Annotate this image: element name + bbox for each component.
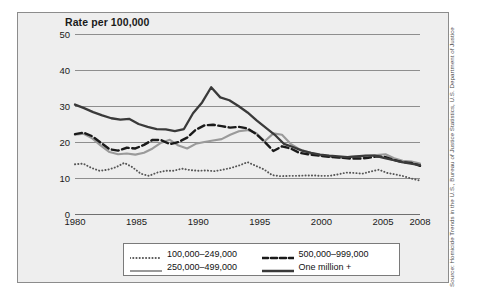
x-tick-label: 2008	[409, 216, 430, 227]
legend-item-one-million-plus: One million +	[262, 262, 394, 272]
plot-area: 01020304050 1980198519901995200020052008	[75, 34, 420, 214]
legend-row: 250,000–499,000 One million +	[130, 260, 393, 273]
legend-label: 250,000–499,000	[167, 262, 237, 272]
legend-swatch-dashed-icon	[262, 249, 294, 259]
legend-item-500k-999k: 500,000–999,000	[262, 249, 394, 259]
y-tick-label: 20	[59, 137, 70, 148]
source-note: Source: Homicide Trends in the U.S., Bur…	[448, 27, 455, 287]
x-tick-label: 1980	[64, 216, 85, 227]
legend-label: 100,000–249,000	[167, 249, 237, 259]
legend-swatch-solid-gray-icon	[130, 262, 162, 272]
series-lines-group	[75, 34, 420, 214]
legend: 100,000–249,000 500,000–999,000 250,000–…	[123, 243, 400, 276]
x-tick-label: 1985	[126, 216, 147, 227]
legend-item-250k-499k: 250,000–499,000	[130, 262, 262, 272]
legend-swatch-dotted-icon	[130, 249, 162, 259]
legend-label: One million +	[299, 262, 352, 272]
x-tick-label: 1995	[249, 216, 270, 227]
legend-swatch-solid-bold-icon	[262, 262, 294, 272]
series-line-1	[75, 162, 420, 180]
x-tick-label: 2005	[372, 216, 393, 227]
y-tick-label: 50	[59, 29, 70, 40]
x-tick-label: 2000	[311, 216, 332, 227]
chart-screenshot: Rate per 100,000 01020304050 19801985199…	[0, 0, 495, 293]
x-axis-line	[75, 214, 420, 215]
chart-title: Rate per 100,000	[65, 16, 150, 28]
x-tick-label: 1990	[188, 216, 209, 227]
y-tick-label: 30	[59, 101, 70, 112]
y-tick-label: 10	[59, 173, 70, 184]
legend-row: 100,000–249,000 500,000–999,000	[130, 247, 393, 260]
legend-label: 500,000–999,000	[299, 249, 369, 259]
y-tick-label: 40	[59, 65, 70, 76]
legend-item-100k-249k: 100,000–249,000	[130, 249, 262, 259]
